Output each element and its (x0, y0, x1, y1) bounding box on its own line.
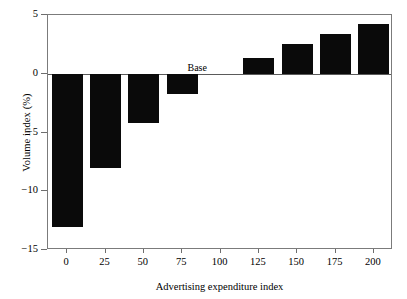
bar (243, 58, 274, 73)
x-axis-tick (335, 249, 336, 253)
plot-area: Base (47, 14, 392, 249)
x-axis-tick-label: 150 (276, 256, 316, 268)
x-axis-tick (373, 249, 374, 253)
bar (52, 74, 83, 227)
bar (358, 24, 389, 73)
bar (282, 44, 313, 73)
x-axis-tick-label: 100 (200, 256, 240, 268)
x-axis-tick-label: 0 (46, 256, 86, 268)
y-axis-tick-label: 5 (2, 9, 38, 19)
bar-chart: Volume index (%) 50−5−10−15 Base 0255075… (0, 0, 407, 299)
y-axis-tick (41, 249, 47, 250)
bar (167, 74, 198, 94)
y-axis-tick-label: 0 (2, 68, 38, 78)
x-axis-tick-label: 50 (123, 256, 163, 268)
y-axis-tick-label: −5 (2, 127, 38, 137)
x-axis-tick-label: 175 (315, 256, 355, 268)
y-axis-tick-label: −10 (2, 185, 38, 195)
x-axis-title: Advertising expenditure index (47, 281, 392, 292)
x-axis-tick-label: 200 (353, 256, 393, 268)
bar (90, 74, 121, 168)
x-axis-tick (66, 249, 67, 253)
bar (320, 34, 351, 74)
x-axis-tick-label: 75 (161, 256, 201, 268)
bar (128, 74, 159, 123)
x-axis-tick (258, 249, 259, 253)
x-axis-tick (143, 249, 144, 253)
x-axis-tick (105, 249, 106, 253)
x-axis-tick-label: 125 (238, 256, 278, 268)
x-axis-tick (296, 249, 297, 253)
y-axis-tick-label: −15 (2, 244, 38, 254)
x-axis-tick (181, 249, 182, 253)
x-axis-tick (220, 249, 221, 253)
x-axis-tick-label: 25 (85, 256, 125, 268)
base-annotation: Base (187, 62, 208, 73)
